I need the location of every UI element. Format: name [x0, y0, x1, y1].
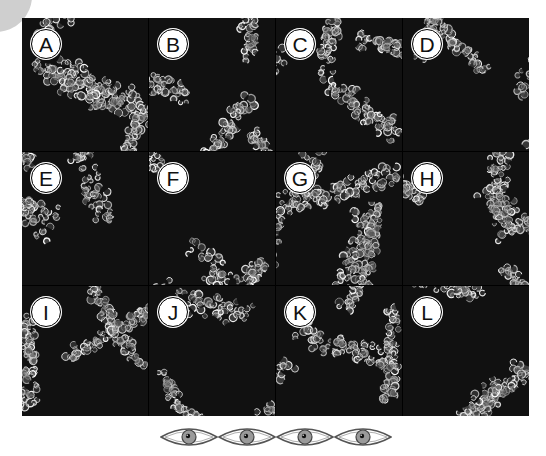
- micrograph-panel-f: F: [149, 152, 275, 285]
- panel-label: F: [158, 163, 188, 193]
- panel-label: I: [31, 297, 61, 327]
- micrograph-panel-k: K: [276, 286, 402, 416]
- micrograph-panel-c: C: [276, 18, 402, 151]
- eye-icon: [160, 425, 218, 449]
- panel-label: K: [285, 297, 315, 327]
- panel-label: L: [412, 297, 442, 327]
- eye-icon: [334, 425, 392, 449]
- micrograph-panel-e: E: [22, 152, 148, 285]
- micrograph-panel-l: L: [403, 286, 529, 416]
- panel-label: A: [31, 29, 61, 59]
- panel-label: H: [412, 163, 442, 193]
- eye-icon: [218, 425, 276, 449]
- micrograph-panel-i: I: [22, 286, 148, 416]
- micrograph-panel-b: B: [149, 18, 275, 151]
- panel-label: C: [285, 29, 315, 59]
- micrograph-panel-d: D: [403, 18, 529, 151]
- micrograph-panel-g: G: [276, 152, 402, 285]
- panel-label: D: [412, 29, 442, 59]
- micrograph-panel-j: J: [149, 286, 275, 416]
- image-grid: ABCDEFGHIJKL: [22, 18, 529, 416]
- micrograph-panel-a: A: [22, 18, 148, 151]
- eye-rating: [160, 425, 392, 449]
- panel-label: E: [31, 163, 61, 193]
- panel-label: G: [285, 163, 315, 193]
- micrograph-panel-h: H: [403, 152, 529, 285]
- panel-label: J: [158, 297, 188, 327]
- eye-icon: [276, 425, 334, 449]
- panel-label: B: [158, 29, 188, 59]
